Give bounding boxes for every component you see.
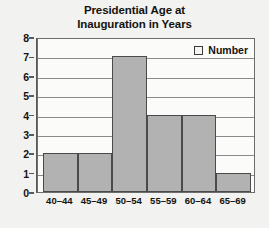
y-tick-mark bbox=[29, 173, 34, 175]
legend-swatch-number-icon bbox=[194, 46, 203, 55]
plot-area: Number bbox=[37, 38, 255, 193]
x-axis: 40–4445–4950–5455–5960–6465–69 bbox=[37, 195, 255, 213]
y-tick-label: 6 bbox=[15, 71, 29, 83]
y-tick-mark bbox=[29, 134, 34, 136]
y-tick-mark bbox=[29, 115, 34, 117]
bar-55-59 bbox=[147, 115, 182, 193]
x-tick-label: 65–69 bbox=[215, 195, 250, 207]
y-tick-mark bbox=[29, 76, 34, 78]
x-tick-label: 40–44 bbox=[42, 195, 77, 207]
y-tick-label: 1 bbox=[15, 168, 29, 180]
bar-50-54 bbox=[112, 56, 147, 192]
x-tick-label: 45–49 bbox=[77, 195, 112, 207]
bar-45-49 bbox=[78, 153, 113, 192]
presidential-age-bar-chart: Presidential Age at Inauguration in Year… bbox=[0, 0, 269, 228]
y-tick-label: 0 bbox=[15, 187, 29, 199]
bar-65-69 bbox=[216, 173, 251, 192]
y-tick-label: 2 bbox=[15, 148, 29, 160]
chart-title-line-2: Inauguration in Years bbox=[0, 17, 269, 31]
y-tick-mark bbox=[29, 153, 34, 155]
y-tick-mark bbox=[29, 37, 34, 39]
y-tick-mark bbox=[29, 57, 34, 59]
legend: Number bbox=[194, 44, 248, 56]
x-tick-label: 60–64 bbox=[181, 195, 216, 207]
y-tick-mark bbox=[29, 95, 34, 97]
chart-title: Presidential Age at Inauguration in Year… bbox=[0, 3, 269, 31]
chart-title-line-1: Presidential Age at bbox=[0, 3, 269, 17]
x-tick-label: 50–54 bbox=[111, 195, 146, 207]
y-tick-label: 7 bbox=[15, 51, 29, 63]
bar-40-44 bbox=[43, 153, 78, 192]
bar-60-64 bbox=[182, 115, 217, 193]
y-tick-label: 8 bbox=[15, 32, 29, 44]
y-tick-label: 3 bbox=[15, 129, 29, 141]
y-tick-label: 5 bbox=[15, 90, 29, 102]
legend-label-number: Number bbox=[208, 44, 248, 56]
y-tick-label: 4 bbox=[15, 110, 29, 122]
x-tick-label: 55–59 bbox=[146, 195, 181, 207]
y-axis: 012345678 bbox=[16, 31, 34, 200]
bars-layer bbox=[38, 39, 254, 192]
y-tick-mark bbox=[29, 192, 34, 194]
